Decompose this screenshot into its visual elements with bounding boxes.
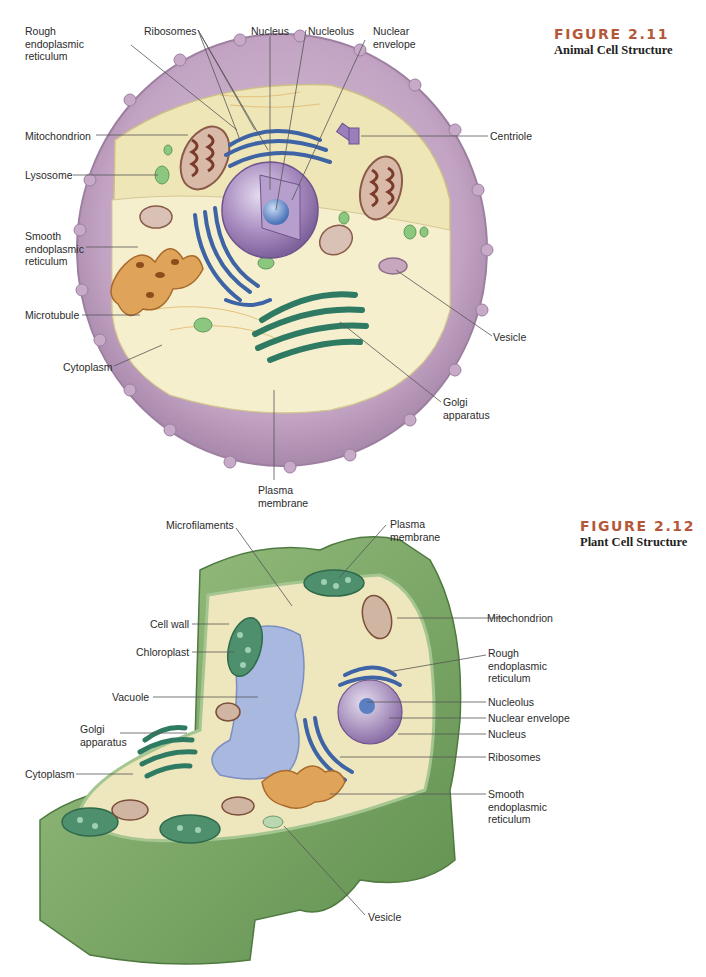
label-vacuole: Vacuole: [112, 691, 149, 704]
label-vesicle: Vesicle: [493, 331, 526, 344]
label-smooth-er: Smooth endoplasmic reticulum: [488, 788, 547, 826]
animal-cell-illustration: [0, 0, 706, 500]
label-lysosome: Lysosome: [25, 169, 72, 182]
label-golgi: Golgi apparatus: [80, 723, 127, 748]
label-rough-er: Rough endoplasmic reticulum: [488, 647, 547, 685]
label-plasma-membrane: Plasma membrane: [390, 518, 440, 543]
label-golgi: Golgi apparatus: [443, 396, 490, 421]
label-ribosomes: Ribosomes: [488, 751, 541, 764]
figure-number: FIGURE 2.11: [554, 26, 669, 42]
label-vesicle: Vesicle: [368, 911, 401, 924]
label-mitochondrion: Mitochondrion: [25, 130, 91, 143]
label-centriole: Centriole: [490, 130, 532, 143]
label-cytoplasm: Cytoplasm: [25, 768, 75, 781]
figure-title: Animal Cell Structure: [554, 43, 673, 58]
figure-plant-cell: Microfilaments Plasma membrane Cell wall…: [0, 500, 706, 977]
label-ribosomes: Ribosomes: [144, 25, 197, 38]
label-cell-wall: Cell wall: [150, 618, 189, 631]
label-nucleolus: Nucleolus: [308, 25, 354, 38]
label-nucleolus: Nucleolus: [488, 696, 534, 709]
figure-animal-cell: Rough endoplasmic reticulum Ribosomes Nu…: [0, 0, 706, 500]
label-nuclear-envelope: Nuclear envelope: [373, 25, 416, 50]
label-smooth-er: Smooth endoplasmic reticulum: [25, 230, 84, 268]
label-nucleus: Nucleus: [488, 728, 526, 741]
label-mitochondrion: Mitochondrion: [487, 612, 553, 625]
label-microfilaments: Microfilaments: [166, 519, 234, 532]
figure-number: FIGURE 2.12: [580, 518, 695, 534]
label-microtubule: Microtubule: [25, 309, 79, 322]
figure-title: Plant Cell Structure: [580, 535, 687, 550]
label-cytoplasm: Cytoplasm: [63, 361, 113, 374]
label-nuclear-envelope: Nuclear envelope: [488, 712, 570, 725]
label-nucleus: Nucleus: [251, 25, 289, 38]
label-rough-er: Rough endoplasmic reticulum: [25, 25, 84, 63]
label-chloroplast: Chloroplast: [136, 646, 189, 659]
